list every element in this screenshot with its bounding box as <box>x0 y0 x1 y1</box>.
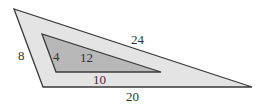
similar-triangles-diagram: 8 24 20 4 12 10 <box>0 0 262 108</box>
outer-top-side-label: 24 <box>131 32 145 47</box>
outer-bottom-side-label: 20 <box>126 89 139 104</box>
inner-top-side-label: 12 <box>80 50 93 65</box>
outer-left-side-label: 8 <box>18 48 25 63</box>
inner-left-side-label: 4 <box>53 49 60 64</box>
inner-bottom-side-label: 10 <box>93 72 106 87</box>
